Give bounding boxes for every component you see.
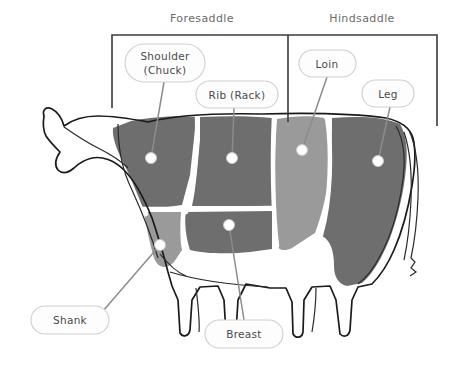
callout-shank[interactable]: Shank (31, 306, 109, 334)
callout-shoulder-line1: Shoulder (140, 50, 190, 62)
callout-loin-label: Loin (316, 58, 339, 70)
cow-front-leg-split (196, 288, 199, 332)
diagram-canvas: Foresaddle Hindsaddle Shoulder (0, 0, 457, 369)
beef-cuts-diagram: Foresaddle Hindsaddle Shoulder (0, 0, 457, 369)
saddle-titles: Foresaddle Hindsaddle (170, 12, 395, 25)
saddle-title-foresaddle: Foresaddle (170, 12, 234, 25)
callout-shoulder[interactable]: Shoulder (Chuck) (125, 44, 205, 82)
callout-leg[interactable]: Leg (362, 80, 414, 107)
callout-breast-label: Breast (226, 328, 262, 340)
callout-shoulder-line2: (Chuck) (144, 64, 187, 76)
callout-rib-label: Rib (Rack) (209, 89, 266, 101)
cut-regions (113, 116, 407, 286)
dot-leg[interactable] (373, 156, 384, 167)
saddle-title-hindsaddle: Hindsaddle (329, 12, 395, 25)
cow-rear-leg-split (312, 288, 316, 332)
breast-region[interactable] (185, 211, 272, 253)
separator-rib-breast (143, 208, 272, 209)
dot-shoulder[interactable] (146, 153, 157, 164)
dot-loin[interactable] (297, 145, 308, 156)
hindsaddle-bracket (288, 35, 437, 126)
callout-leg-label: Leg (378, 88, 398, 100)
callout-shank-label: Shank (53, 314, 88, 326)
callout-loin[interactable]: Loin (299, 50, 356, 77)
dot-shank[interactable] (155, 240, 166, 251)
callout-breast[interactable]: Breast (205, 320, 283, 348)
callout-rib[interactable]: Rib (Rack) (196, 81, 278, 108)
dot-breast[interactable] (224, 220, 235, 231)
shank-region[interactable] (144, 212, 182, 267)
leader-shank (103, 245, 160, 311)
dot-rib[interactable] (227, 153, 238, 164)
leg-region[interactable] (322, 117, 407, 286)
